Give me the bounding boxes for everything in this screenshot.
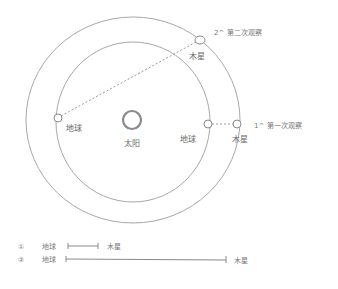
legend-bar-2 bbox=[66, 259, 226, 260]
legend-from-2: 地球 bbox=[42, 255, 56, 264]
jupiter-label-top: 木星 bbox=[189, 51, 205, 61]
observation-1-label: 1^ 第一次观察 bbox=[254, 121, 302, 130]
jupiter-label-right: 木星 bbox=[232, 134, 248, 144]
legend-marker-2: ② bbox=[18, 256, 24, 264]
legend-to-1: 木星 bbox=[107, 242, 121, 251]
legend-marker-1: ① bbox=[18, 243, 24, 251]
jupiter-icon-right bbox=[233, 120, 241, 128]
observation-2-label: 2^ 第二次观察 bbox=[214, 28, 262, 37]
legend-from-1: 地球 bbox=[42, 242, 56, 251]
earth-orbit bbox=[56, 42, 210, 202]
sun-icon bbox=[123, 111, 141, 129]
earth-icon-right bbox=[204, 120, 212, 128]
orbit-diagram: 太阳 地球 地球 木星 木星 2^ 第二次观察 1^ 第一次观察 ① 地球 木星… bbox=[0, 0, 338, 289]
sun-label: 太阳 bbox=[124, 138, 140, 148]
legend-to-2: 木星 bbox=[234, 256, 248, 265]
jupiter-icon-top bbox=[195, 36, 205, 44]
sightline-2 bbox=[61, 42, 196, 116]
earth-icon-left bbox=[54, 114, 62, 122]
earth-label-left: 地球 bbox=[66, 123, 82, 133]
earth-label-right: 地球 bbox=[180, 134, 196, 144]
